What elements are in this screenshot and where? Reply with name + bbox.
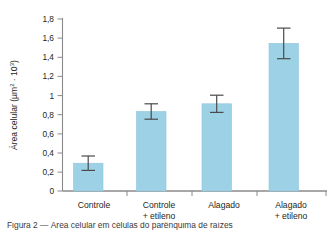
y-tick-label: 0,8 <box>42 110 54 120</box>
bar-alagado-etileno[interactable] <box>269 43 299 191</box>
y-tick-label: 1,2 <box>42 71 54 81</box>
y-axis-title: Área celular (µm2 · 103) <box>9 60 19 150</box>
category-label-controle-etileno-line1: Controle <box>143 200 176 210</box>
svg-text:Área celular (µm2 · 103): Área celular (µm2 · 103) <box>9 60 19 150</box>
bar-controle-etileno[interactable] <box>137 112 167 192</box>
figure-caption: Figura 2 — Área celular em células do pa… <box>7 222 233 230</box>
figure-container: 1,8 1,6 1,4 1,2 1 0,8 0,6 0,4 0,2 0 Área… <box>0 0 333 233</box>
y-tick-label: 1,8 <box>42 14 54 24</box>
bar-alagado[interactable] <box>202 104 232 191</box>
y-axis-title-end: ) <box>9 60 19 63</box>
category-label-alagado-etileno-line1: Alagado <box>275 200 307 210</box>
y-tick-label: 1 <box>49 91 54 101</box>
y-tick-label: 0,2 <box>42 167 54 177</box>
y-tick-label: 0 <box>49 186 54 196</box>
y-tick-label: 0,4 <box>42 148 54 158</box>
y-axis-title-main: Área celular (µm <box>9 87 19 150</box>
bar-chart: 1,8 1,6 1,4 1,2 1 0,8 0,6 0,4 0,2 0 Área… <box>0 0 333 233</box>
y-tick-label: 1,6 <box>42 33 54 43</box>
category-label-controle-etileno-line2: + etileno <box>143 211 176 221</box>
y-tick-label: 1,4 <box>42 52 54 62</box>
y-tick-label: 0,6 <box>42 129 54 139</box>
figure-caption-strip: Figura 2 — Área celular em células do pa… <box>0 222 333 233</box>
y-axis-title-mid: · 10 <box>9 66 19 83</box>
category-label-alagado: Alagado <box>208 200 240 210</box>
category-label-controle: Controle <box>78 200 111 210</box>
category-label-alagado-etileno-line2: + etileno <box>275 211 308 221</box>
